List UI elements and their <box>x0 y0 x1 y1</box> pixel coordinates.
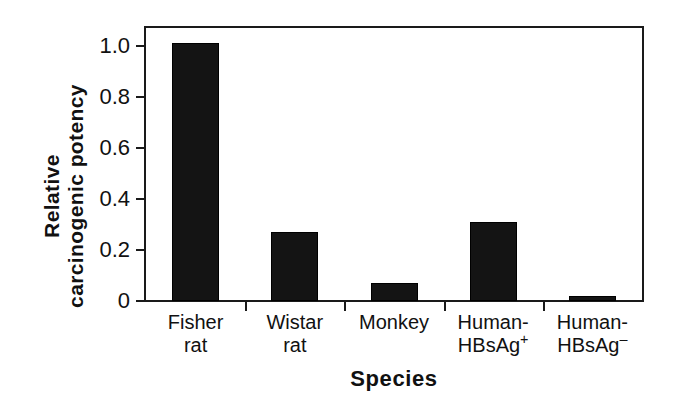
x-axis-tick <box>444 302 446 311</box>
bar-human-hbsag <box>569 296 616 301</box>
y-axis-tick-label: 0.6 <box>70 135 130 161</box>
bar-wistar-rat <box>271 232 318 301</box>
x-axis-category-label-superscript: – <box>620 331 628 347</box>
y-axis-title-line1: Relative <box>40 154 64 238</box>
x-axis-category-label-superscript: + <box>520 331 528 347</box>
x-axis-category-label-line2: HBsAg– <box>532 334 652 357</box>
y-axis-tick-label: 1.0 <box>70 33 130 59</box>
bar-fisher-rat <box>172 43 219 301</box>
x-axis-tick <box>344 302 346 311</box>
y-axis-tick-label: 0.2 <box>70 237 130 263</box>
bar-chart: Relative carcinogenic potency 00.20.40.6… <box>0 0 675 412</box>
y-axis-tick-label: 0 <box>70 288 130 314</box>
y-axis-tick-label: 0.8 <box>70 84 130 110</box>
y-axis-tick-label: 0.4 <box>70 186 130 212</box>
x-axis-category-label: Human-HBsAg– <box>532 311 652 357</box>
bar-monkey <box>371 283 418 301</box>
x-axis-category-label-line1: Human- <box>532 311 652 334</box>
x-axis-tick <box>245 302 247 311</box>
x-axis-title: Species <box>144 366 644 392</box>
plot-area <box>146 28 642 301</box>
x-axis-tick <box>543 302 545 311</box>
x-axis-category-label-line2: rat <box>235 334 355 357</box>
bar-human-hbsag <box>470 222 517 301</box>
